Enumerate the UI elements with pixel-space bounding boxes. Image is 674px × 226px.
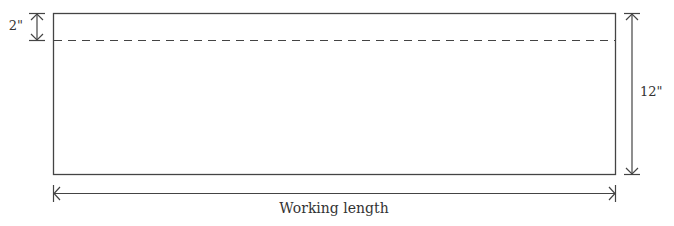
bottom-dimension-label: Working length (279, 200, 388, 216)
side-dimension-arrow (624, 14, 640, 176)
panel-diagram: 2" 12" Working length (0, 0, 674, 226)
panel-outline (54, 14, 616, 175)
side-dimension-label: 12" (640, 84, 663, 99)
top-dimension-label: 2" (9, 18, 23, 33)
top-dimension-arrow (29, 14, 45, 41)
